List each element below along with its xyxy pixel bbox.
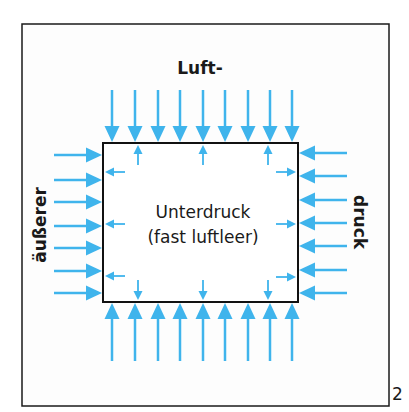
label-druck: druck: [350, 195, 370, 250]
air-pressure-diagram: Luft- äußerer druck Unterdruck (fast luf…: [0, 0, 409, 412]
label-fast-luftleer: (fast luftleer): [147, 227, 258, 247]
evacuated-container: [103, 143, 298, 302]
figure-number: 2: [392, 384, 403, 404]
label-luft: Luft-: [177, 58, 223, 78]
label-unterdruck: Unterdruck: [156, 202, 251, 222]
label-aeusserer: äußerer: [30, 187, 50, 263]
